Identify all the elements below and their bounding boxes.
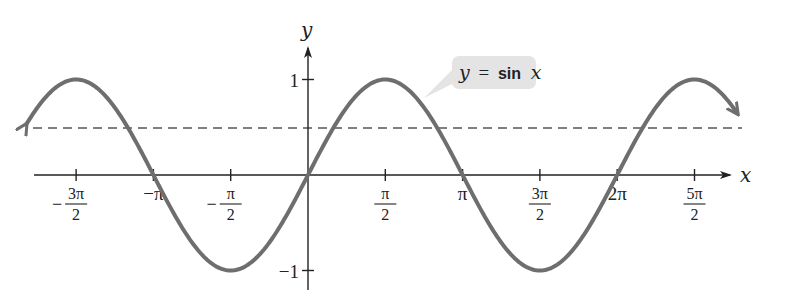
x-tick-label: 5π2 [684,185,706,223]
svg-text:2: 2 [536,206,544,223]
callout-x: x [531,61,542,83]
svg-text:2: 2 [72,206,80,223]
x-tick-label: 3π2− [52,185,87,223]
svg-text:3π: 3π [68,185,84,202]
svg-text:π: π [381,185,389,202]
x-tick-label: π2 [374,185,396,223]
svg-text:3π: 3π [532,185,548,202]
y-axis-label: y [300,18,313,42]
x-tick-label: π2− [207,185,242,223]
x-axis-label: x [740,163,751,187]
callout-y: y [458,61,470,83]
sine-graph: 3π2−−ππ2−π2π3π22π5π2 1−1 y x y = sin x [0,0,785,303]
svg-text:π: π [227,185,235,202]
x-tick-label: 3π2 [529,185,551,223]
svg-text:−: − [52,194,62,214]
y-tick-label: −1 [279,261,299,282]
function-callout: y = sin x [424,56,542,98]
callout-sin: sin [498,65,521,82]
svg-text:2: 2 [691,206,699,223]
svg-text:2: 2 [381,206,389,223]
svg-text:2: 2 [227,206,235,223]
callout-equals: = [478,62,489,83]
svg-text:−: − [207,194,217,214]
y-tick-label: 1 [290,70,300,91]
svg-text:5π: 5π [686,185,702,202]
